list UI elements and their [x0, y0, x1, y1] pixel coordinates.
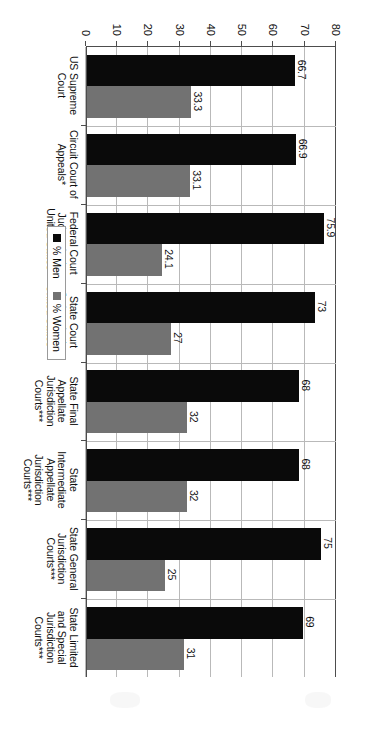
value-axis-label: 70	[299, 0, 310, 36]
bar-women[interactable]	[87, 402, 187, 434]
legend-entry-men[interactable]: % Men	[52, 234, 63, 279]
category-separator	[87, 284, 336, 285]
bar-women[interactable]	[87, 560, 165, 592]
value-axis-tick	[210, 41, 211, 46]
bar-value-label: 33.1	[192, 166, 203, 194]
value-axis-tick	[241, 41, 242, 46]
bar-women[interactable]	[87, 323, 171, 355]
category-label: State Limited and Special Jurisdiction C…	[33, 598, 79, 677]
bar-value-label: 32	[189, 482, 200, 510]
bar-men[interactable]	[87, 449, 300, 481]
bar-men[interactable]	[87, 370, 300, 402]
bar-men[interactable]	[87, 213, 324, 245]
category-separator	[87, 126, 336, 127]
bar-chart: 0102030405060708066.733.3US Supreme Cour…	[0, 0, 383, 735]
bar-value-label: 73	[317, 292, 328, 320]
category-separator	[87, 599, 336, 600]
bar-women[interactable]	[87, 244, 162, 276]
bar-women[interactable]	[87, 86, 191, 118]
category-axis-tick	[81, 204, 86, 205]
bar-value-label: 32	[189, 403, 200, 431]
value-axis-label: 0	[80, 0, 91, 36]
category-axis-tick	[81, 362, 86, 363]
scan-artifact	[110, 692, 140, 708]
bar-value-label: 68	[301, 371, 312, 399]
value-axis-tick	[179, 41, 180, 46]
bar-men[interactable]	[87, 528, 321, 560]
value-axis-tick	[116, 41, 117, 46]
legend-label: % Men	[52, 246, 63, 279]
bar-value-label: 66.7	[297, 56, 308, 84]
category-label: State General Jurisdiction Courts***	[45, 519, 80, 598]
category-separator	[87, 205, 336, 206]
value-axis-label: 20	[143, 0, 154, 36]
bar-men[interactable]	[87, 607, 303, 639]
bar-men[interactable]	[87, 134, 296, 166]
category-label: Circuit Court of Appeals*	[56, 125, 79, 204]
legend-entry-women[interactable]: % Women	[52, 292, 63, 352]
value-axis-label: 30	[174, 0, 185, 36]
value-axis-label: 50	[236, 0, 247, 36]
category-axis-tick	[81, 519, 86, 520]
scan-artifact	[305, 692, 331, 708]
legend-label: % Women	[52, 304, 63, 352]
bar-women[interactable]	[87, 481, 187, 513]
category-separator	[87, 441, 336, 442]
bar-women[interactable]	[87, 165, 190, 197]
bar-value-label: 69	[304, 608, 315, 636]
category-axis-tick	[81, 440, 86, 441]
bar-value-label: 68	[301, 450, 312, 478]
value-axis-tick	[335, 41, 336, 46]
category-label: State Intermediate Appellate Jurisdictio…	[22, 440, 80, 519]
category-label: US Supreme Court	[56, 46, 79, 125]
bar-value-label: 75	[323, 529, 334, 557]
bar-value-label: 33.3	[193, 87, 204, 115]
value-axis-tick	[304, 41, 305, 46]
chart-legend: % Men% Women	[48, 226, 67, 360]
bar-value-label: 27	[173, 324, 184, 352]
value-axis-tick	[273, 41, 274, 46]
value-axis-label: 80	[330, 0, 341, 36]
bar-men[interactable]	[87, 292, 315, 324]
bar-value-label: 66.9	[298, 135, 309, 163]
category-label: State Final Appellate Jurisdiction Court…	[33, 362, 79, 441]
bar-value-label: 25	[167, 560, 178, 588]
bar-value-label: 24.1	[164, 245, 175, 273]
value-axis-label: 40	[205, 0, 216, 36]
bar-men[interactable]	[87, 55, 295, 87]
category-separator	[87, 520, 336, 521]
value-axis-label: 10	[111, 0, 122, 36]
category-axis-tick	[81, 598, 86, 599]
legend-swatch-icon	[53, 234, 61, 242]
bar-value-label: 31	[185, 639, 196, 667]
bar-women[interactable]	[87, 639, 184, 671]
category-separator	[87, 363, 336, 364]
legend-swatch-icon	[53, 292, 61, 300]
bar-value-label: 75.9	[326, 213, 337, 241]
rotated-chart-stage: 0102030405060708066.733.3US Supreme Cour…	[0, 0, 383, 735]
value-axis-tick	[148, 41, 149, 46]
category-axis-tick	[81, 283, 86, 284]
category-axis-tick	[81, 125, 86, 126]
value-axis-tick	[85, 41, 86, 46]
value-axis-label: 60	[268, 0, 279, 36]
